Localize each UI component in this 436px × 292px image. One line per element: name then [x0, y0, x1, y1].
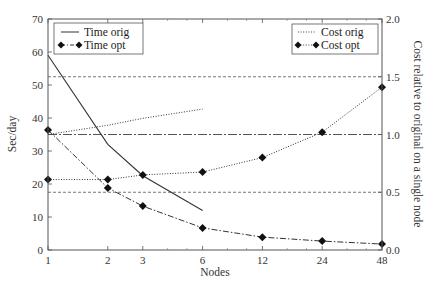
series-time-orig	[48, 55, 203, 210]
y-right-tick-label: 1.5	[386, 71, 400, 83]
series-cost-orig	[48, 109, 203, 134]
y-axis-left-labels: 010203040506070	[32, 13, 44, 256]
diamond-marker-icon	[139, 202, 147, 210]
legend-left: Time orig Time opt	[54, 23, 143, 54]
diamond-marker-icon	[199, 224, 207, 232]
diamond-marker-icon	[318, 237, 326, 245]
reference-lines	[48, 77, 382, 193]
x-axis-labels: 1236122448	[45, 254, 388, 266]
x-tick-label: 12	[257, 254, 268, 266]
x-tick-label: 24	[317, 254, 329, 266]
y-left-tick-label: 50	[32, 79, 44, 91]
x-tick-label: 48	[377, 254, 389, 266]
y-right-tick-label: 2.0	[386, 13, 400, 25]
series-time-opt	[48, 130, 382, 244]
diamond-marker-icon	[104, 184, 112, 192]
y-left-tick-label: 70	[32, 13, 44, 25]
y-axis-right-title: Cost relative to original on a single no…	[411, 41, 424, 228]
series-layer	[44, 55, 386, 248]
y-left-tick-label: 30	[32, 145, 44, 157]
legend-right: Cost orig Cost opt	[292, 24, 378, 54]
x-tick-label: 1	[45, 254, 51, 266]
y-axis-left-title: Sec/day	[6, 116, 19, 153]
legend-time-orig-label: Time orig	[84, 26, 130, 39]
legend-time-opt-label: Time opt	[84, 39, 126, 52]
diamond-marker-icon	[199, 168, 207, 176]
y-left-tick-label: 0	[38, 244, 44, 256]
legend-cost-orig-label: Cost orig	[321, 26, 364, 39]
x-tick-label: 3	[140, 254, 146, 266]
y-right-tick-label: 0.5	[386, 186, 400, 198]
y-left-tick-label: 40	[32, 112, 44, 124]
y-left-tick-label: 60	[32, 46, 44, 58]
legend-cost-opt-label: Cost opt	[321, 39, 360, 52]
y-right-tick-label: 1.0	[386, 129, 400, 141]
diamond-marker-icon	[104, 176, 112, 184]
y-left-tick-label: 10	[32, 211, 44, 223]
x-axis-title: Nodes	[200, 266, 230, 278]
y-axis-right-labels: 0.00.51.01.52.0	[386, 13, 400, 256]
x-tick-label: 6	[200, 254, 206, 266]
diamond-marker-icon	[258, 233, 266, 241]
x-tick-label: 2	[105, 254, 111, 266]
diamond-marker-icon	[258, 154, 266, 162]
series-cost-opt	[48, 87, 382, 179]
y-right-tick-label: 0.0	[386, 244, 400, 256]
chart: 010203040506070 0.00.51.01.52.0 12361224…	[0, 0, 436, 292]
y-left-tick-label: 20	[32, 178, 44, 190]
